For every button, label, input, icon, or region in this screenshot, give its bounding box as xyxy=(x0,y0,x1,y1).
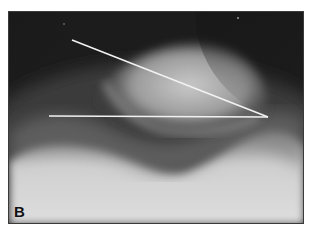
panel-label: B xyxy=(14,204,25,219)
radiograph-panel: B xyxy=(8,11,304,224)
xray-image xyxy=(9,12,304,224)
horizontal-measurement-line xyxy=(49,116,268,117)
